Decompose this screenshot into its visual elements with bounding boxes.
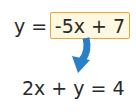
- highlighted-expression-box: -5x + 7: [50, 12, 130, 39]
- highlighted-expression: -5x + 7: [51, 14, 129, 38]
- equation-top-lhs: y =: [14, 15, 47, 37]
- curved-arrow-down-icon: [60, 36, 100, 76]
- equation-bottom: 2x + y = 4: [22, 77, 125, 99]
